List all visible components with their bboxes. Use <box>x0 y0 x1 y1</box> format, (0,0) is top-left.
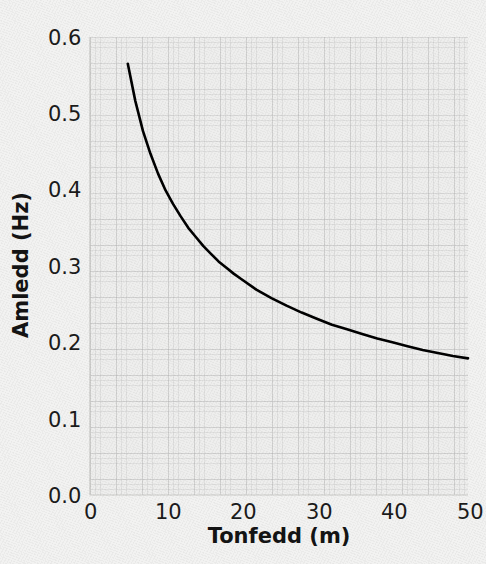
y-tick-label-0.1: 0.1 <box>48 408 81 432</box>
x-axis-title: Tonfedd (m) <box>90 524 468 548</box>
y-tick-label-0.5: 0.5 <box>48 102 81 126</box>
y-tick-label-0.4: 0.4 <box>48 178 81 202</box>
y-tick-label-0.6: 0.6 <box>48 26 81 50</box>
x-tick-label-20: 20 <box>230 500 257 524</box>
x-tick-label-30: 30 <box>306 500 333 524</box>
x-tick-label-10: 10 <box>155 500 182 524</box>
y-axis-title: Amledd (Hz) <box>9 192 33 338</box>
chart-page: 0.6 0.5 0.4 0.3 0.2 0.1 0.0 0 10 20 30 4… <box>0 0 486 564</box>
y-tick-label-0.2: 0.2 <box>48 331 81 355</box>
y-axis-title-wrapper: Amledd (Hz) <box>4 0 38 530</box>
data-series-line <box>128 64 468 359</box>
x-tick-label-40: 40 <box>381 500 408 524</box>
x-tick-label-50: 50 <box>457 500 484 524</box>
y-tick-label-0.3: 0.3 <box>48 255 81 279</box>
chart-canvas <box>0 0 486 564</box>
y-tick-label-0.0: 0.0 <box>48 484 81 508</box>
x-tick-label-0: 0 <box>84 500 97 524</box>
